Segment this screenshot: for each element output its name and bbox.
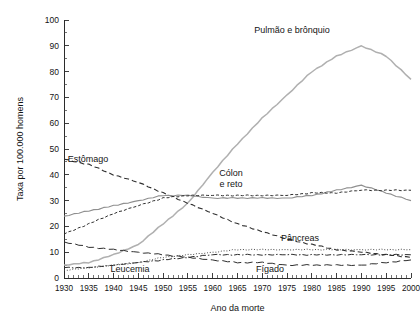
series-line [64, 185, 411, 216]
y-tick-label: 60 [50, 118, 60, 128]
series-label: Pâncreas [281, 233, 320, 243]
series-line [64, 190, 411, 234]
x-tick-label: 1995 [377, 284, 396, 293]
y-tick-label: 40 [50, 170, 60, 180]
data-series-lines [64, 46, 411, 270]
y-tick-label: 30 [50, 196, 60, 206]
x-axis-tick-labels: 1930193519401945195019551960196519701975… [55, 284, 420, 293]
y-tick-label: 10 [50, 247, 60, 257]
x-tick-label: 1940 [104, 284, 123, 293]
x-tick-label: 1980 [303, 284, 322, 293]
series-label: Fígado [256, 264, 284, 274]
axis-tick-marks [64, 20, 411, 278]
series-line [64, 46, 411, 265]
y-tick-label: 80 [50, 67, 60, 77]
y-tick-label: 0 [54, 273, 59, 283]
x-tick-label: 1955 [179, 284, 198, 293]
series-label: Cólone reto [219, 168, 243, 189]
y-tick-label: 100 [45, 15, 59, 25]
chart-axes [64, 20, 411, 278]
chart-figure: 0102030405060708090100 19301935194019451… [0, 0, 420, 321]
series-label: Estômago [68, 154, 109, 164]
x-axis-title: Ano da morte [210, 303, 264, 313]
y-tick-label: 50 [50, 144, 60, 154]
x-tick-label: 1990 [352, 284, 371, 293]
y-axis-title: Taxa por 100.000 homens [15, 96, 25, 201]
series-annotations: Pulmão e brônquioEstômagoCólone retoPânc… [68, 25, 330, 274]
x-tick-label: 1945 [129, 284, 148, 293]
x-tick-label: 1930 [55, 284, 74, 293]
x-tick-label: 1970 [253, 284, 272, 293]
x-tick-label: 1985 [328, 284, 347, 293]
y-axis-tick-labels: 0102030405060708090100 [45, 15, 59, 283]
y-tick-label: 90 [50, 41, 60, 51]
x-tick-label: 1965 [228, 284, 247, 293]
x-tick-label: 1975 [278, 284, 297, 293]
series-label: Pulmão e brônquio [254, 25, 330, 35]
series-label: Leucemia [110, 264, 149, 274]
line-chart-canvas: 0102030405060708090100 19301935194019451… [0, 0, 420, 321]
y-tick-label: 70 [50, 92, 60, 102]
x-tick-label: 1950 [154, 284, 173, 293]
x-tick-label: 1960 [204, 284, 223, 293]
y-tick-label: 20 [50, 221, 60, 231]
x-tick-label: 1935 [80, 284, 99, 293]
x-tick-label: 2000 [402, 284, 420, 293]
